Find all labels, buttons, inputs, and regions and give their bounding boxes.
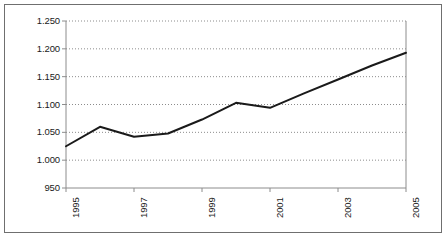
y-tick-label: 1.150	[14, 71, 60, 82]
tick-mark-group	[62, 21, 406, 192]
x-tick-label: 1995	[70, 197, 81, 218]
y-tick-label: 1.050	[14, 126, 60, 137]
y-tick-label: 1.100	[14, 99, 60, 110]
x-tick-label: 2001	[274, 197, 285, 218]
x-tick-label: 2003	[342, 197, 353, 218]
y-tick-label: 1.000	[14, 154, 60, 165]
x-tick-label: 1997	[138, 197, 149, 218]
x-tick-label: 2005	[410, 197, 421, 218]
y-tick-label: 1.250	[14, 15, 60, 26]
x-tick-label: 1999	[206, 197, 217, 218]
y-tick-label: 1.200	[14, 43, 60, 54]
y-tick-label: 950	[14, 182, 60, 193]
gridline-group	[66, 21, 406, 160]
line-chart	[0, 0, 447, 241]
